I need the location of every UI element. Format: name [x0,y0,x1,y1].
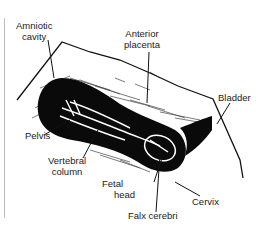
label-line: Cervix [192,196,219,207]
label-cervix: Cervix [192,196,219,207]
label-line: column [48,166,86,177]
label-pelvis: Pelvis [25,130,50,141]
label-falx-cerebri: Falx cerebri [128,210,178,221]
label-amniotic-cavity: Amniotic cavity [16,20,52,42]
label-vertebral-column: Vertebral column [48,155,86,177]
label-bladder: Bladder [218,92,251,103]
label-line: Fetal [102,178,135,189]
label-line: Vertebral [48,155,86,166]
label-line: Pelvis [25,130,50,141]
label-fetal-head: Fetal head [102,178,135,200]
label-line: Amniotic [16,20,52,31]
label-line: Anterior [124,28,160,39]
label-anterior-placenta: Anterior placenta [124,28,160,50]
label-line: cavity [16,31,52,42]
ultrasound-diagram: Amniotic cavity Anterior placenta Bladde… [0,0,267,228]
label-line: placenta [124,39,160,50]
label-line: head [102,189,135,200]
label-line: Falx cerebri [128,210,178,221]
label-line: Bladder [218,92,251,103]
